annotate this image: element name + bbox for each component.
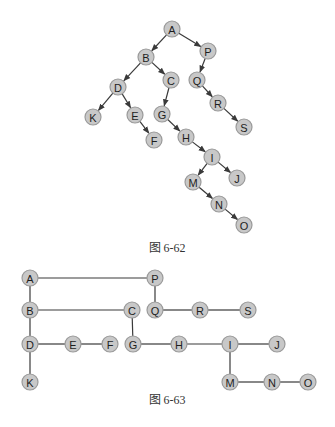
fig63-node-label-N: N — [268, 377, 276, 389]
fig62-edge-D-K — [98, 93, 112, 110]
fig62-node-label-N: N — [215, 199, 223, 211]
fig62-node-label-R: R — [214, 98, 222, 110]
fig62-edge-M-N — [199, 187, 212, 198]
fig63-node-label-E: E — [69, 339, 76, 351]
fig62-node-label-S: S — [240, 122, 247, 134]
fig62-edge-E-F — [140, 121, 149, 133]
fig62-edge-B-D — [124, 63, 141, 81]
figure-6-62-tree: ABPDCQKEGRSFHIJMNO — [85, 21, 252, 233]
fig62-node-label-Q: Q — [193, 75, 202, 87]
fig62-node-label-H: H — [182, 132, 190, 144]
fig63-node-label-J: J — [274, 339, 280, 351]
fig63-node-label-K: K — [26, 377, 34, 389]
fig62-edge-N-O — [225, 209, 237, 219]
fig63-node-label-F: F — [107, 339, 114, 351]
fig62-edge-A-B — [152, 35, 167, 51]
figure-6-62-caption: 图 6-62 — [149, 241, 186, 255]
fig63-node-label-R: R — [196, 305, 204, 317]
fig62-node-label-D: D — [114, 82, 122, 94]
fig62-edge-D-E — [122, 94, 130, 108]
fig62-node-label-O: O — [240, 220, 249, 232]
fig62-edge-Q-R — [202, 86, 212, 97]
fig62-edge-I-M — [198, 163, 207, 175]
fig63-node-label-B: B — [26, 305, 33, 317]
fig62-edge-C-G — [164, 88, 169, 106]
fig62-node-label-M: M — [188, 177, 197, 189]
fig63-edge-C-G — [132, 318, 133, 336]
fig63-node-label-O: O — [304, 377, 313, 389]
fig63-node-label-P: P — [151, 273, 158, 285]
fig62-node-label-P: P — [204, 46, 211, 58]
figure-6-63-caption: 图 6-63 — [149, 393, 186, 407]
fig62-node-label-G: G — [158, 109, 167, 121]
figure-6-63-binary-tree: APBCQRSDEFGHIJKMNO — [22, 270, 316, 390]
fig63-node-label-I: I — [228, 339, 231, 351]
fig62-edge-H-I — [192, 142, 205, 152]
tree-diagrams: ABPDCQKEGRSFHIJMNO 图 6-62 APBCQRSDEFGHIJ… — [0, 0, 335, 427]
fig62-node-label-A: A — [168, 24, 176, 36]
fig62-node-label-I: I — [210, 152, 213, 164]
fig62-node-label-J: J — [234, 173, 240, 185]
fig62-edge-R-S — [224, 108, 238, 121]
fig62-edge-G-H — [168, 120, 180, 132]
fig62-node-label-C: C — [167, 75, 175, 87]
fig62-edge-P-Q — [200, 58, 205, 72]
fig62-node-label-E: E — [131, 110, 138, 122]
fig62-edge-I-J — [218, 162, 230, 172]
fig63-node-label-D: D — [26, 339, 34, 351]
fig63-node-label-H: H — [175, 339, 183, 351]
fig63-node-label-Q: Q — [151, 305, 160, 317]
fig63-node-label-C: C — [128, 305, 136, 317]
fig62-node-label-B: B — [142, 52, 149, 64]
fig62-edge-B-C — [152, 62, 165, 74]
fig63-node-label-S: S — [244, 305, 251, 317]
fig62-edge-A-P — [179, 33, 201, 46]
fig63-node-label-G: G — [129, 339, 138, 351]
fig62-node-label-F: F — [151, 135, 158, 147]
fig63-node-label-A: A — [26, 273, 34, 285]
fig62-node-label-K: K — [89, 112, 97, 124]
fig63-node-label-M: M — [225, 377, 234, 389]
